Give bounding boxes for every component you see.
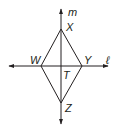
label-vertex-x: X (65, 21, 74, 33)
label-vertex-w: W (30, 54, 42, 66)
label-vertex-z: Z (64, 102, 73, 114)
label-intersection-t: T (63, 69, 71, 81)
label-line-l: ℓ (105, 54, 110, 66)
label-vertex-y: Y (84, 54, 92, 66)
label-line-m: m (68, 6, 77, 18)
rhombus-diagram: m X W Y ℓ T Z (0, 0, 117, 133)
